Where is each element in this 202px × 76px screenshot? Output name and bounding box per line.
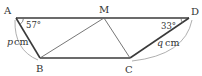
length-label-AB: pcm [7,36,28,47]
label-D: D [191,6,199,17]
segment-BM [40,18,104,58]
length-label-CD: qcm [157,37,179,48]
angle-label-A: 57° [26,20,41,30]
label-A: A [3,5,12,16]
angle-label-D: 33° [161,21,176,31]
label-C: C [125,64,133,75]
label-M: M [99,4,109,15]
length-var-p: p [7,36,13,47]
segment-MC [104,18,130,58]
label-B: B [36,63,43,74]
angle-arc-A [20,18,24,24]
diagram-canvas: A M D B C 57° 33° pcm qcm [0,0,202,76]
length-var-q: q [157,37,163,48]
length-unit-AB: cm [14,36,28,47]
length-unit-CD: cm [165,37,179,48]
trapezoid-diagram: A M D B C 57° 33° pcm qcm [0,0,202,76]
